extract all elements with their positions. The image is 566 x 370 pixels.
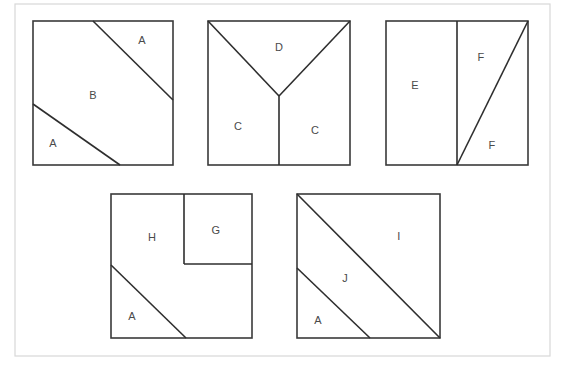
square-2-region-c-left: C	[234, 120, 242, 132]
square-1: ABA	[33, 21, 173, 165]
square-2: DCC	[208, 21, 350, 165]
square-4-region-h: H	[148, 231, 156, 243]
figure-canvas: ABADCCEFFHGAIJA	[0, 0, 566, 370]
square-1-region-a-upper: A	[138, 34, 146, 46]
square-3: EFF	[386, 21, 528, 165]
square-1-region-b: B	[89, 89, 97, 101]
square-4: HGA	[111, 194, 252, 338]
square-3-region-f-upper: F	[478, 51, 485, 63]
square-5-region-i: I	[397, 230, 400, 242]
square-2-region-c-right: C	[311, 124, 319, 136]
square-1-region-a-lower: A	[49, 137, 57, 149]
geometry-diagram: ABADCCEFFHGAIJA	[0, 0, 566, 370]
square-5: IJA	[297, 194, 440, 338]
square-2-region-d: D	[275, 41, 283, 53]
figures-group: ABADCCEFFHGAIJA	[33, 21, 528, 338]
square-4-region-g: G	[212, 224, 221, 236]
square-3-region-e: E	[411, 79, 419, 91]
square-5-region-j: J	[342, 272, 348, 284]
square-4-region-a: A	[128, 310, 136, 322]
square-3-region-f-lower: F	[489, 139, 496, 151]
square-5-region-a: A	[314, 314, 322, 326]
